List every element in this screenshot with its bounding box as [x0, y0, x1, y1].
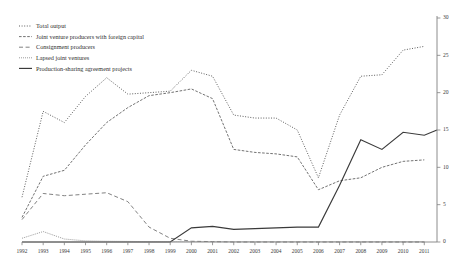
- series-line: [22, 232, 424, 242]
- legend-label: Production-sharing agreement projects: [36, 65, 132, 72]
- x-tick-label: 1995: [80, 248, 91, 254]
- x-tick-label: 2000: [186, 248, 197, 254]
- x-tick-label: 1993: [38, 248, 49, 254]
- x-tick-label: 1996: [101, 248, 112, 254]
- y-tick-label: 30: [443, 14, 449, 20]
- legend-label: Joint venture producers with foreign cap…: [36, 33, 144, 40]
- chart-series-group: [22, 46, 437, 242]
- chart-canvas: Total outputJoint venture producers with…: [0, 0, 467, 268]
- x-tick-label: 2006: [313, 248, 324, 254]
- y-tick-label: 5: [443, 201, 446, 207]
- y-tick-label: 10: [443, 164, 449, 170]
- legend-label: Total output: [36, 22, 66, 29]
- y-tick-label: 20: [443, 89, 449, 95]
- x-tick-label: 1998: [144, 248, 155, 254]
- x-tick-label: 2007: [334, 248, 345, 254]
- x-tick-label: 2003: [250, 248, 261, 254]
- y-tick-label: 15: [443, 126, 449, 132]
- y-tick-label: 0: [443, 238, 446, 244]
- x-tick-label: 2002: [228, 248, 239, 254]
- x-tick-label: 2004: [271, 248, 282, 254]
- line-chart: Total outputJoint venture producers with…: [0, 0, 467, 268]
- series-line: [22, 89, 424, 217]
- legend-label: Lapsed joint ventures: [36, 54, 90, 61]
- x-tick-label: 2011: [419, 248, 430, 254]
- x-tick-label: 2010: [398, 248, 409, 254]
- x-tick-label: 2009: [377, 248, 388, 254]
- y-tick-label: 25: [443, 52, 449, 58]
- x-tick-label: 2001: [207, 248, 218, 254]
- x-tick-label: 2005: [292, 248, 303, 254]
- x-tick-label: 1997: [122, 248, 133, 254]
- x-tick-label: 1992: [17, 248, 28, 254]
- series-line: [22, 193, 424, 242]
- x-tick-label: 2008: [355, 248, 366, 254]
- x-tick-label: 1999: [165, 248, 176, 254]
- chart-legend: Total outputJoint venture producers with…: [19, 22, 144, 71]
- x-tick-label: 1994: [59, 248, 70, 254]
- legend-label: Consignment producers: [36, 43, 96, 50]
